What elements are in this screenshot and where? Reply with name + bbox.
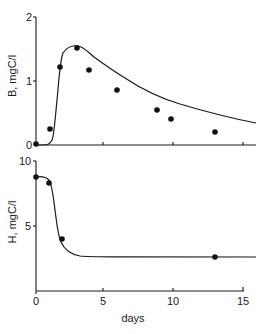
bottom-y-tick-label-10: 10 [19, 155, 31, 167]
top-data-point [86, 67, 92, 73]
x-tick-label-15: 15 [237, 295, 249, 307]
top-data-point [74, 45, 80, 51]
top-panel: 2 1 0 B, mgC/l [6, 11, 256, 151]
top-data-point [154, 107, 160, 113]
top-y-tick-label-0: 0 [26, 139, 32, 151]
bottom-data-point [33, 174, 39, 180]
top-data-point [168, 116, 174, 122]
top-y-axis-label: B, mgC/l [6, 55, 18, 97]
top-y-tick-label-1: 1 [26, 75, 32, 87]
x-tick-label-5: 5 [100, 295, 106, 307]
top-data-point [57, 64, 63, 70]
bottom-y-axis-label: H, mgC/l [6, 201, 18, 244]
x-tick-label-0: 0 [33, 295, 39, 307]
bottom-data-point [46, 180, 52, 186]
top-y-tick-label-2: 2 [26, 11, 32, 23]
bottom-y-tick-label-5: 5 [25, 220, 31, 232]
top-data-point [212, 129, 218, 135]
top-data-point [114, 87, 120, 93]
x-tick-label-10: 10 [167, 295, 179, 307]
bottom-data-point [59, 236, 65, 242]
top-data-point [33, 141, 39, 147]
top-data-point [47, 126, 53, 132]
chart-figure: 2 1 0 B, mgC/l 10 5 H, mgC/l 0 5 [0, 0, 268, 334]
x-axis-label: days [121, 312, 145, 324]
bottom-data-point [212, 254, 218, 260]
bottom-panel: 10 5 H, mgC/l 0 5 10 15 days [6, 155, 256, 324]
top-model-curve [36, 46, 256, 145]
bottom-model-curve [36, 177, 256, 257]
